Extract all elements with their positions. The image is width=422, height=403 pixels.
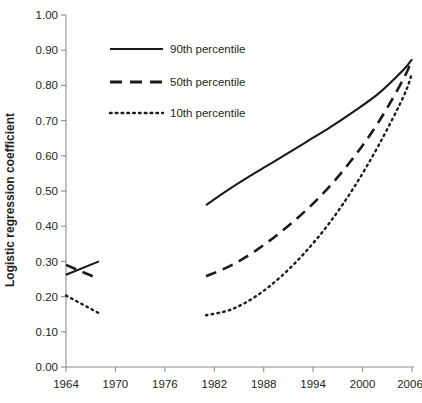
x-tick-label: 1988 bbox=[251, 378, 277, 390]
line-chart: Logistic regression coefficient 1.00 0.9… bbox=[0, 0, 422, 403]
legend-label-10th-percentile: 10th percentile bbox=[170, 107, 245, 119]
y-tick-label: 0.40 bbox=[36, 220, 58, 232]
y-tick-label: 0.20 bbox=[36, 291, 58, 303]
x-axis-ticks bbox=[66, 367, 412, 372]
y-tick-label: 1.00 bbox=[36, 9, 58, 21]
y-tick-label: 0.30 bbox=[36, 256, 58, 268]
y-tick-label: 0.80 bbox=[36, 79, 58, 91]
x-tick-label: 2006 bbox=[397, 378, 422, 390]
x-tick-label: 1976 bbox=[152, 378, 178, 390]
x-tick-label: 1994 bbox=[300, 378, 326, 390]
y-axis-title: Logistic regression coefficient bbox=[3, 113, 17, 287]
x-tick-label: 1964 bbox=[53, 378, 79, 390]
x-tick-label: 1970 bbox=[103, 378, 129, 390]
x-axis-tick-labels: 1964 1970 1976 1982 1988 1994 2000 2006 bbox=[53, 378, 422, 390]
x-tick-label: 2000 bbox=[350, 378, 376, 390]
y-tick-label: 0.10 bbox=[36, 326, 58, 338]
y-tick-label: 0.50 bbox=[36, 185, 58, 197]
legend-label-50th-percentile: 50th percentile bbox=[170, 76, 245, 88]
y-tick-label: 0.70 bbox=[36, 115, 58, 127]
y-tick-label: 0.00 bbox=[36, 361, 58, 373]
series-dotted-early bbox=[66, 296, 99, 314]
legend: 90th percentile 50th percentile 10th per… bbox=[110, 43, 245, 119]
y-axis-ticks bbox=[61, 15, 66, 367]
y-axis-tick-labels: 1.00 0.90 0.80 0.70 0.60 0.50 0.40 0.30 … bbox=[36, 9, 58, 373]
y-tick-label: 0.90 bbox=[36, 44, 58, 56]
x-tick-label: 1982 bbox=[202, 378, 228, 390]
series-layer bbox=[66, 59, 412, 315]
legend-label-90th-percentile: 90th percentile bbox=[170, 43, 245, 55]
chart-figure: Logistic regression coefficient 1.00 0.9… bbox=[0, 0, 422, 403]
y-tick-label: 0.60 bbox=[36, 150, 58, 162]
